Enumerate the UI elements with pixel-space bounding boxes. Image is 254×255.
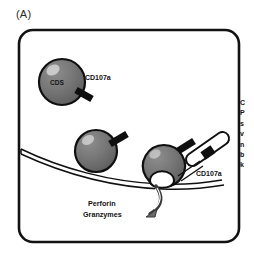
secretion-label-line1: Perforin: [88, 199, 116, 208]
figure-panel: (A) CDS CD107a: [0, 0, 254, 255]
side-caption-line-6: b: [240, 150, 254, 160]
cd107a-label-left: CD107a: [85, 74, 111, 81]
secretion-arrow-icon: [146, 186, 161, 217]
side-caption-line-5: n: [240, 140, 254, 150]
cell-inner-label: CDS: [50, 79, 65, 86]
diagram-canvas: CDS CD107a CD107a: [0, 0, 254, 255]
side-caption-line-2: P: [240, 108, 254, 118]
cell-body: [75, 130, 117, 172]
cd107a-marker-icon: [178, 141, 194, 151]
cd8-tcell-free: CDS CD107a: [39, 59, 111, 105]
side-caption-line-1: C: [240, 98, 254, 108]
secretory-cleft: [150, 171, 174, 188]
cd8-tcell-degranulating: [143, 141, 194, 188]
vesicle-band: [203, 149, 213, 156]
cd8-tcell-contact: [75, 130, 127, 172]
cd107a-marker-icon: [110, 134, 127, 144]
cd107a-transferred-marker: CD107a: [178, 132, 229, 181]
side-caption: C P s v n b k: [240, 98, 254, 171]
side-caption-line-7: k: [240, 160, 254, 170]
side-caption-line-4: v: [240, 129, 254, 139]
cd107a-label-right: CD107a: [196, 170, 222, 177]
side-caption-line-3: s: [240, 119, 254, 129]
secretion-label-line2: Granzymes: [83, 210, 122, 219]
